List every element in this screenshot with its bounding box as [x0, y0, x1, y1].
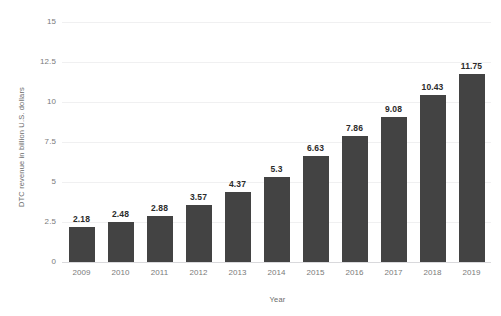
bar[interactable]: 2.18 [69, 227, 95, 262]
y-axis-tick-label: 5 [0, 176, 56, 188]
x-axis-tick-label: 2013 [218, 266, 257, 280]
bar-slot: 11.75 [452, 22, 491, 262]
bar-slot: 10.43 [413, 22, 452, 262]
y-axis-tick-label: 15 [0, 16, 56, 28]
y-axis-tick-label: 7.5 [0, 136, 56, 148]
bar-value-label: 2.48 [112, 209, 129, 219]
bar-value-label: 9.08 [385, 104, 402, 114]
bar-slot: 4.37 [218, 22, 257, 262]
x-axis-title: Year [62, 294, 493, 305]
bar-slot: 9.08 [374, 22, 413, 262]
bar-slot: 6.63 [296, 22, 335, 262]
plot-area: 2.182.482.883.574.375.36.637.869.0810.43… [62, 22, 491, 262]
y-axis-tick-label: 10 [0, 96, 56, 108]
bar[interactable]: 11.75 [459, 74, 485, 262]
bar-value-label: 10.43 [422, 82, 444, 92]
bar-series: 2.182.482.883.574.375.36.637.869.0810.43… [62, 22, 491, 262]
bar[interactable]: 3.57 [186, 205, 212, 262]
bar-value-label: 5.3 [270, 164, 282, 174]
x-axis-tick-label: 2009 [62, 266, 101, 280]
bar-slot: 2.18 [62, 22, 101, 262]
bar[interactable]: 5.3 [264, 177, 290, 262]
x-axis-tick-label: 2014 [257, 266, 296, 280]
x-axis-tick-labels: 2009201020112012201320142015201620172018… [62, 266, 491, 280]
y-axis-tick-label: 12.5 [0, 56, 56, 68]
bar[interactable]: 4.37 [225, 192, 251, 262]
y-axis-tick-label: 0 [0, 256, 56, 268]
bar[interactable]: 7.86 [342, 136, 368, 262]
axis-baseline [62, 262, 491, 263]
bar-slot: 3.57 [179, 22, 218, 262]
bar-slot: 5.3 [257, 22, 296, 262]
bar[interactable]: 2.88 [147, 216, 173, 262]
bar-chart: DTC revenue in billion U.S. dollars 02.5… [0, 0, 501, 316]
bar-slot: 2.48 [101, 22, 140, 262]
bar-value-label: 4.37 [229, 179, 246, 189]
x-axis-tick-label: 2019 [452, 266, 491, 280]
bar-value-label: 2.18 [73, 214, 90, 224]
bar-value-label: 3.57 [190, 192, 207, 202]
x-axis-tick-label: 2010 [101, 266, 140, 280]
bar-value-label: 2.88 [151, 203, 168, 213]
bar-slot: 2.88 [140, 22, 179, 262]
bar[interactable]: 10.43 [420, 95, 446, 262]
x-axis-tick-label: 2017 [374, 266, 413, 280]
bar[interactable]: 9.08 [381, 117, 407, 262]
y-axis-tick-label: 2.5 [0, 216, 56, 228]
y-axis-tick-labels: 02.557.51012.515 [0, 22, 56, 262]
bar-value-label: 11.75 [461, 61, 482, 71]
bar-slot: 7.86 [335, 22, 374, 262]
bar-value-label: 6.63 [307, 143, 324, 153]
x-axis-tick-label: 2018 [413, 266, 452, 280]
bar-value-label: 7.86 [346, 123, 363, 133]
bar[interactable]: 6.63 [303, 156, 329, 262]
x-axis-tick-label: 2015 [296, 266, 335, 280]
x-axis-tick-label: 2016 [335, 266, 374, 280]
x-axis-tick-label: 2011 [140, 266, 179, 280]
x-axis-tick-label: 2012 [179, 266, 218, 280]
bar[interactable]: 2.48 [108, 222, 134, 262]
